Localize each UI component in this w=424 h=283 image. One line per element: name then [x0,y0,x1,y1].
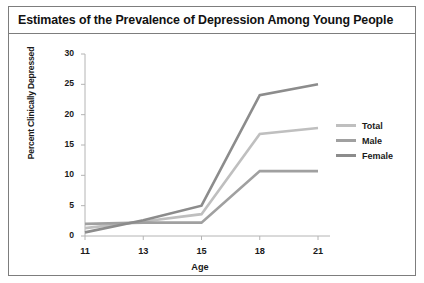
legend-item: Male [336,134,420,147]
legend-item: Total [336,119,420,132]
y-tick-label: 10 [48,169,74,179]
y-tick-label: 25 [48,78,74,88]
x-tick-label: 13 [128,246,158,256]
x-tick-label: 15 [187,246,217,256]
chart-title-bar: Estimates of the Prevalence of Depressio… [9,7,415,34]
x-tick-label: 21 [303,246,333,256]
chart-legend: TotalMaleFemale [336,119,420,164]
x-tick-label: 18 [245,246,275,256]
x-axis-label: Age [85,262,315,272]
chart-figure: Estimates of the Prevalence of Depressio… [0,0,424,283]
y-tick-label: 15 [48,139,74,149]
legend-label: Female [362,151,393,161]
legend-swatch-icon [336,139,356,142]
y-tick-label: 20 [48,109,74,119]
legend-swatch-icon [336,124,356,127]
legend-swatch-icon [336,154,356,157]
legend-item: Female [336,149,420,162]
y-tick-label: 5 [48,200,74,210]
legend-label: Male [362,136,382,146]
legend-label: Total [362,121,383,131]
page-title: Estimates of the Prevalence of Depressio… [9,13,393,27]
y-tick-label: 30 [48,48,74,58]
y-tick-label: 0 [48,230,74,240]
x-tick-label: 11 [70,246,100,256]
y-axis-label: Percent Clinically Depressed [26,43,36,163]
